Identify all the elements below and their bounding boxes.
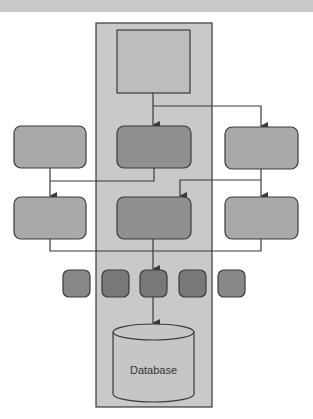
small-square-4[interactable] (179, 270, 206, 297)
left-box-2[interactable] (14, 197, 86, 239)
small-square-3[interactable] (140, 270, 167, 297)
right-box-2[interactable] (225, 197, 298, 239)
database-cylinder[interactable]: Database (113, 324, 194, 402)
database-cylinder-top (113, 324, 194, 340)
top-box[interactable] (117, 30, 190, 93)
small-square-5[interactable] (218, 270, 245, 297)
left-box-1[interactable] (14, 126, 86, 168)
architecture-diagram: Database (0, 0, 313, 419)
small-square-1[interactable] (63, 270, 90, 297)
database-label: Database (130, 364, 177, 376)
right-box-1[interactable] (225, 127, 298, 169)
center-box-1[interactable] (117, 126, 191, 168)
center-box-2[interactable] (117, 197, 191, 239)
small-square-2[interactable] (102, 270, 129, 297)
